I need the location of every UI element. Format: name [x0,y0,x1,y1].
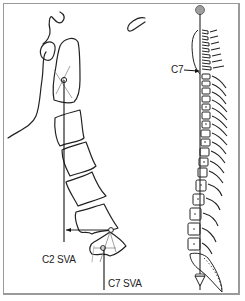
c2-diagonal-1 [54,70,72,98]
cervical-spine-outline [192,30,200,74]
plumb-head-icon [196,6,205,15]
sacrum-outline [190,253,222,292]
c1-anterior-arch [40,42,55,60]
c7-arrow-head-icon [195,69,200,73]
c2-vertebra [53,39,80,103]
c7-posterior-corner-marker [109,228,114,233]
c7-label: C7 [171,64,183,75]
plumb-bob-icon [195,276,205,286]
spine-diagram [0,0,245,301]
c2-diagonal-2 [56,66,70,94]
c7-sva-label: C7 SVA [108,278,142,289]
jaw-outline [8,52,46,138]
sacral-dotted-curve [204,258,222,290]
c7-vertebra [90,232,126,256]
plumb-bob-cap [195,274,205,276]
c2-sva-label: C2 SVA [42,254,76,265]
c5-vertebra [66,172,106,206]
c3-vertebra [55,110,84,146]
occiput-outline [43,12,64,44]
cervical-bodies [202,30,211,70]
c4-vertebra [62,142,96,176]
arrow-head-icon [66,228,71,232]
ear-curve [128,18,145,31]
lumbar-bodies [188,180,206,250]
